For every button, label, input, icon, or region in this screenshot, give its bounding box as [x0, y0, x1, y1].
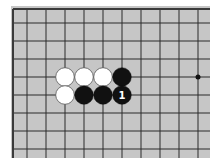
- go-board[interactable]: 1: [0, 0, 220, 168]
- black-stone-icon: [75, 86, 94, 105]
- white-stone-icon: [94, 68, 113, 87]
- black-stone[interactable]: 1: [113, 86, 132, 105]
- white-stone-icon: [75, 68, 94, 87]
- move-number-label: 1: [119, 90, 126, 101]
- black-stone-icon: [113, 68, 132, 87]
- white-stone[interactable]: [94, 68, 113, 87]
- white-stone[interactable]: [75, 68, 94, 87]
- white-stone[interactable]: [56, 68, 75, 87]
- star-point-icon: [196, 75, 201, 80]
- black-stone[interactable]: [75, 86, 94, 105]
- white-stone-icon: [56, 68, 75, 87]
- star-points: [196, 75, 201, 80]
- black-stone-icon: [94, 86, 113, 105]
- white-stone[interactable]: [56, 86, 75, 105]
- black-stone[interactable]: [94, 86, 113, 105]
- white-stone-icon: [56, 86, 75, 105]
- black-stone[interactable]: [113, 68, 132, 87]
